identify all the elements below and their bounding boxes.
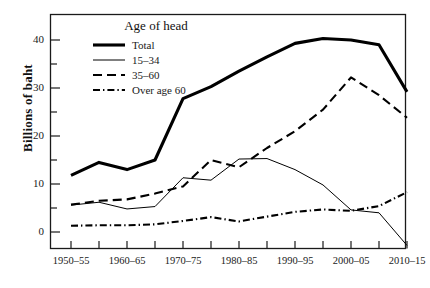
legend-item-15-34: 15–34 xyxy=(92,52,242,67)
x-tick-label-1970-75: 1970–75 xyxy=(153,255,213,266)
legend-label-total: Total xyxy=(132,39,154,51)
y-tick-label-40: 40 xyxy=(22,33,44,45)
legend-title: Age of head xyxy=(96,18,216,34)
y-tick-label-20: 20 xyxy=(22,129,44,141)
y-axis-title: Billions of baht xyxy=(20,28,36,188)
legend-label-15-34: 15–34 xyxy=(132,54,160,66)
x-tick-label-1980-85: 1980–85 xyxy=(209,255,269,266)
legend-label-over-60: Over age 60 xyxy=(132,84,186,96)
y-tick-label-10: 10 xyxy=(22,177,44,189)
chart-legend: Age of head Total 15–34 35–60 Over age 6… xyxy=(92,18,242,97)
legend-swatch-35-60 xyxy=(92,69,126,81)
x-tick-label-2000-05: 2000–05 xyxy=(321,255,381,266)
y-tick-label-0: 0 xyxy=(22,225,44,237)
x-tick-label-1960-65: 1960–65 xyxy=(97,255,157,266)
y-tick-label-30: 30 xyxy=(22,81,44,93)
x-tick-label-1990-95: 1990–95 xyxy=(265,255,325,266)
x-tick-label-1950-55: 1950–55 xyxy=(41,255,101,266)
legend-swatch-over-60 xyxy=(92,84,126,96)
legend-item-35-60: 35–60 xyxy=(92,67,242,82)
legend-item-over-60: Over age 60 xyxy=(92,82,242,97)
legend-swatch-15-34 xyxy=(92,54,126,66)
x-tick-label-2010-15: 2010–15 xyxy=(377,255,430,266)
legend-label-35-60: 35–60 xyxy=(132,69,160,81)
legend-item-total: Total xyxy=(92,37,242,52)
legend-swatch-total xyxy=(92,39,126,51)
